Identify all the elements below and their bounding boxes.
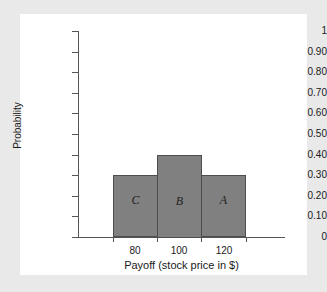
y-tick-label-1.00: 1: [281, 26, 327, 36]
x-tick-left: [113, 237, 114, 242]
figure: Probability 1 0.90 0.80 0.70 0.60 0.50 0…: [0, 0, 327, 292]
y-tick-0.90: [72, 52, 78, 53]
x-tick-100-120: [201, 237, 202, 242]
y-tick-label-0.20: 0.20: [281, 191, 327, 201]
y-tick-label-0.10: 0.10: [281, 211, 327, 221]
y-tick-0.60: [72, 113, 78, 114]
y-tick-label-0.70: 0.70: [281, 88, 327, 98]
x-axis-title: Payoff (stock price in $): [78, 259, 285, 271]
y-tick-0.10: [72, 216, 78, 217]
x-tick-label-120: 120: [204, 245, 244, 256]
y-tick-label-0.00: 0: [281, 232, 327, 242]
bar-A[interactable]: A: [201, 175, 246, 237]
y-tick-0.50: [72, 134, 78, 135]
y-tick-0.80: [72, 72, 78, 73]
y-tick-0.40: [72, 155, 78, 156]
bar-label-A: A: [202, 193, 245, 208]
y-tick-label-0.40: 0.40: [281, 150, 327, 160]
y-tick-0.70: [72, 93, 78, 94]
y-tick-0.30: [72, 175, 78, 176]
y-tick-label-0.50: 0.50: [281, 129, 327, 139]
bar-C[interactable]: C: [113, 175, 158, 237]
x-tick-label-100: 100: [159, 245, 199, 256]
bar-label-B: B: [158, 194, 201, 209]
y-tick-label-0.80: 0.80: [281, 67, 327, 77]
bar-chart: Probability 1 0.90 0.80 0.70 0.60 0.50 0…: [0, 0, 327, 292]
y-tick-label-0.30: 0.30: [281, 170, 327, 180]
x-tick-label-80: 80: [115, 245, 155, 256]
y-axis-title: Probability: [12, 81, 23, 171]
x-tick-80-100: [157, 237, 158, 242]
y-tick-0.20: [72, 196, 78, 197]
y-axis-line: [78, 31, 79, 238]
y-tick-1.00: [72, 31, 78, 32]
x-tick-right: [246, 237, 247, 242]
bar-B[interactable]: B: [157, 155, 202, 238]
y-tick-label-0.90: 0.90: [281, 47, 327, 57]
bar-label-C: C: [114, 193, 157, 208]
y-tick-label-0.60: 0.60: [281, 108, 327, 118]
